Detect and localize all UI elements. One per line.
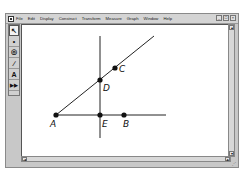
point-tool[interactable]: •: [9, 36, 19, 47]
point-icon: •: [13, 38, 15, 45]
label-A: A: [49, 119, 56, 129]
app-icon[interactable]: [8, 16, 14, 22]
scroll-up-button[interactable]: ▴: [229, 25, 234, 30]
point-E[interactable]: [97, 112, 102, 117]
label-B: B: [123, 119, 129, 129]
sketchpad-window: File Edit Display Construct Transform Me…: [5, 13, 239, 168]
minimize-button[interactable]: _: [216, 15, 222, 21]
straightedge-icon: ∕: [13, 60, 14, 67]
window-controls: _ □ ×: [216, 15, 236, 21]
custom-tool[interactable]: ▶▶: [9, 80, 19, 91]
menu-display[interactable]: Display: [40, 16, 54, 21]
restore-button[interactable]: □: [223, 15, 229, 21]
menu-edit[interactable]: Edit: [28, 16, 35, 21]
arrow-icon: ↖: [11, 27, 17, 35]
point-D[interactable]: [97, 77, 102, 82]
compass-icon: ◎: [11, 48, 17, 56]
menu-window[interactable]: Window: [144, 16, 159, 21]
menu-graph[interactable]: Graph: [127, 16, 139, 21]
scroll-right-button[interactable]: ▸: [225, 157, 230, 161]
menu-file[interactable]: File: [16, 16, 23, 21]
point-B[interactable]: [121, 112, 126, 117]
compass-tool[interactable]: ◎: [9, 47, 19, 58]
menu-measure[interactable]: Measure: [106, 16, 122, 21]
ray-AC[interactable]: [56, 36, 154, 115]
scroll-left-button[interactable]: ◂: [22, 157, 27, 161]
text-icon: A: [11, 71, 16, 78]
horizontal-scrollbar[interactable]: ◂ ▸: [21, 156, 231, 162]
resize-grip-icon[interactable]: ⋰: [232, 161, 237, 166]
vertical-scrollbar[interactable]: ▴ ▾: [228, 24, 235, 157]
menu-help[interactable]: Help: [163, 16, 172, 21]
custom-tool-icon: ▶▶: [10, 82, 18, 88]
label-D: D: [103, 83, 110, 93]
geometry-figure: A B C D E: [22, 25, 230, 156]
point-C[interactable]: [112, 65, 117, 70]
menu-bar: File Edit Display Construct Transform Me…: [6, 14, 238, 24]
toolbox: ↖ • ◎ ∕ A ▶▶: [8, 24, 20, 96]
text-tool[interactable]: A: [9, 69, 19, 80]
sketch-canvas[interactable]: A B C D E: [21, 24, 231, 157]
straightedge-tool[interactable]: ∕: [9, 58, 19, 69]
label-C: C: [119, 64, 126, 74]
menu-transform[interactable]: Transform: [82, 16, 101, 21]
menu-construct[interactable]: Construct: [59, 16, 77, 21]
close-button[interactable]: ×: [230, 15, 236, 21]
point-A[interactable]: [53, 112, 58, 117]
selection-arrow-tool[interactable]: ↖: [9, 25, 19, 36]
label-E: E: [102, 119, 108, 129]
